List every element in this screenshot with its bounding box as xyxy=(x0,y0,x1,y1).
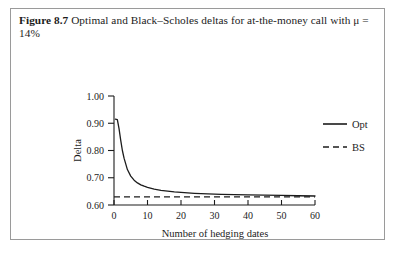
legend-label-opt: Opt xyxy=(352,119,368,130)
figure-caption: Figure 8.7 Optimal and Black–Scholes del… xyxy=(19,14,369,40)
x-tick-label-60: 60 xyxy=(310,210,320,221)
y-tick-label-0.60: 0.60 xyxy=(87,200,105,211)
y-tick-label-0.70: 0.70 xyxy=(87,172,105,183)
x-axis-ticks xyxy=(114,200,315,205)
x-axis-title: Number of hedging dates xyxy=(162,228,268,239)
chart-legend: Opt BS xyxy=(323,119,368,153)
y-axis-ticks xyxy=(108,96,114,205)
y-tick-label-0.90: 0.90 xyxy=(87,118,105,129)
chart-plot: 1.00 0.90 0.80 0.70 0.60 0 10 20 30 40 5… xyxy=(11,55,386,241)
legend-label-bs: BS xyxy=(352,142,365,153)
x-tick-label-10: 10 xyxy=(143,210,153,221)
chart-svg: 1.00 0.90 0.80 0.70 0.60 0 10 20 30 40 5… xyxy=(11,55,386,241)
y-tick-label-1.00: 1.00 xyxy=(87,91,105,102)
y-axis-title: Delta xyxy=(72,139,83,162)
figure-caption-text: Optimal and Black–Scholes deltas for at-… xyxy=(19,14,369,39)
series-line-opt xyxy=(115,119,315,196)
x-tick-label-30: 30 xyxy=(210,210,220,221)
figure-frame: Figure 8.7 Optimal and Black–Scholes del… xyxy=(10,8,385,240)
x-tick-label-40: 40 xyxy=(243,210,253,221)
x-tick-label-50: 50 xyxy=(277,210,287,221)
x-tick-label-0: 0 xyxy=(112,210,117,221)
x-tick-label-20: 20 xyxy=(176,210,186,221)
y-tick-label-0.80: 0.80 xyxy=(87,145,105,156)
figure-label: Figure 8.7 xyxy=(19,14,68,26)
